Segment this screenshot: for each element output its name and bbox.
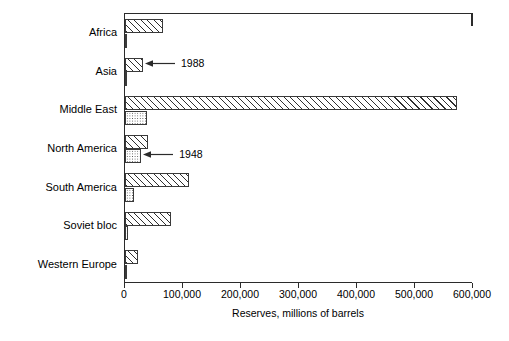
x-axis-label: Reserves, millions of barrels	[124, 307, 472, 320]
bar-western-europe-1948	[125, 265, 127, 279]
bar-soviet-bloc-1948	[125, 226, 128, 240]
y-tick-label: Western Europe	[17, 258, 117, 270]
bar-western-europe-1988	[125, 250, 138, 264]
bar-north-america-1988	[125, 135, 148, 149]
y-tick-label: Middle East	[17, 103, 117, 115]
bar-asia-1988	[125, 58, 143, 72]
arrow-icon	[141, 148, 181, 162]
y-tick-label: Africa	[17, 26, 117, 38]
bar-north-america-1948	[125, 149, 141, 163]
bar-chart-figure: World region Africa Asia Middle East Nor…	[0, 0, 509, 341]
annotation-label: 1948	[179, 148, 202, 160]
y-axis-tick-labels: Africa Asia Middle East North America So…	[20, 13, 121, 283]
bar-south-america-1948	[125, 188, 134, 202]
y-tick-label: Soviet bloc	[17, 219, 117, 231]
bar-soviet-bloc-1988	[125, 212, 171, 226]
annotation-label: 1988	[181, 57, 204, 69]
y-tick-label: Asia	[17, 65, 117, 77]
y-tick-label: North America	[17, 142, 117, 154]
bar-south-america-1988	[125, 173, 189, 187]
bar-middle-east-1988	[125, 96, 457, 110]
y-tick-label: South America	[17, 181, 117, 193]
bar-middle-east-1948	[125, 111, 147, 125]
bar-africa-1988	[125, 19, 163, 33]
bar-africa-1948	[125, 34, 127, 48]
x-tick-label: 600,000	[437, 288, 507, 301]
x-axis-tick-labels: 0100,000200,000300,000400,000500,000600,…	[0, 288, 509, 302]
bar-asia-1948	[125, 72, 127, 86]
arrow-icon	[143, 57, 183, 71]
